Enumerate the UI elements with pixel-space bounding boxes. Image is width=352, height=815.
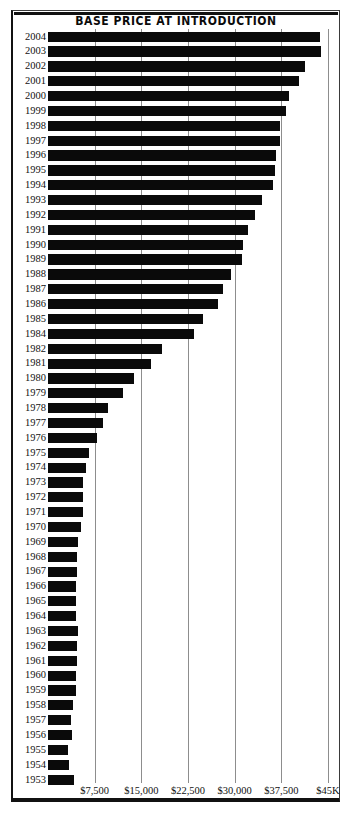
bar-row: 1968	[0, 550, 352, 565]
year-label: 1971	[14, 505, 46, 519]
bar	[48, 715, 71, 725]
year-label: 2000	[14, 89, 46, 103]
x-tick-label: $37,500	[264, 785, 298, 797]
bar	[48, 492, 83, 502]
year-label: 1954	[14, 758, 46, 772]
bar-row: 1959	[0, 683, 352, 698]
bar	[48, 418, 103, 428]
bar	[48, 269, 231, 279]
bar-row: 2002	[0, 59, 352, 74]
year-label: 1993	[14, 193, 46, 207]
year-label: 1969	[14, 535, 46, 549]
x-tick-label: $30,000	[218, 785, 252, 797]
year-label: 1985	[14, 312, 46, 326]
bar	[48, 344, 162, 354]
bar-row: 1962	[0, 639, 352, 654]
year-label: 1996	[14, 148, 46, 162]
bar-row: 1994	[0, 178, 352, 193]
bar-row: 1969	[0, 535, 352, 550]
bar-row: 1992	[0, 208, 352, 223]
bar-row: 1999	[0, 104, 352, 119]
year-label: 1967	[14, 564, 46, 578]
bar-row: 1958	[0, 698, 352, 713]
bar	[48, 210, 255, 220]
bar	[48, 596, 76, 606]
bar	[48, 136, 280, 146]
bar-row: 1984	[0, 327, 352, 342]
bar-row: 1995	[0, 163, 352, 178]
year-label: 1981	[14, 356, 46, 370]
year-label: 1960	[14, 668, 46, 682]
bar	[48, 433, 97, 443]
bar	[48, 61, 305, 71]
bar	[48, 106, 286, 116]
bar	[48, 641, 77, 651]
bar-row: 1982	[0, 342, 352, 357]
bar	[48, 165, 275, 175]
bar	[48, 150, 276, 160]
bar-row: 2000	[0, 89, 352, 104]
year-label: 1968	[14, 550, 46, 564]
bar-row: 1965	[0, 594, 352, 609]
year-label: 1958	[14, 698, 46, 712]
year-label: 1980	[14, 371, 46, 385]
bar-row: 1988	[0, 267, 352, 282]
bar	[48, 448, 89, 458]
bar	[48, 685, 76, 695]
year-label: 1986	[14, 297, 46, 311]
bar	[48, 656, 77, 666]
bar	[48, 121, 280, 131]
bar-row: 1990	[0, 238, 352, 253]
bar-row: 1998	[0, 119, 352, 134]
bar	[48, 373, 134, 383]
bar	[48, 180, 273, 190]
bar-row: 1967	[0, 564, 352, 579]
bar-row: 1993	[0, 193, 352, 208]
bar-row: 1989	[0, 252, 352, 267]
bar	[48, 611, 76, 621]
bar-row: 1963	[0, 624, 352, 639]
bar-row: 1957	[0, 713, 352, 728]
x-tick-label: $22,500	[171, 785, 205, 797]
year-label: 1965	[14, 594, 46, 608]
bar-row: 1973	[0, 475, 352, 490]
year-label: 1959	[14, 683, 46, 697]
year-label: 1994	[14, 178, 46, 192]
bar	[48, 314, 203, 324]
year-label: 1953	[14, 773, 46, 787]
bar	[48, 463, 86, 473]
bar-row: 1979	[0, 386, 352, 401]
bar-row: 1972	[0, 490, 352, 505]
year-label: 1977	[14, 416, 46, 430]
year-label: 1989	[14, 252, 46, 266]
year-label: 1956	[14, 728, 46, 742]
bar-row: 1975	[0, 446, 352, 461]
year-label: 1972	[14, 490, 46, 504]
year-label: 1979	[14, 386, 46, 400]
bar-row: 1970	[0, 520, 352, 535]
bar-row: 1997	[0, 134, 352, 149]
bar	[48, 403, 108, 413]
bar-row: 1991	[0, 223, 352, 238]
year-label: 1991	[14, 223, 46, 237]
year-label: 1978	[14, 401, 46, 415]
bar	[48, 671, 76, 681]
plot-area: 2004200320022001200019991998199719961995…	[0, 0, 352, 815]
year-label: 1982	[14, 342, 46, 356]
year-label: 1961	[14, 654, 46, 668]
bar	[48, 299, 218, 309]
year-label: 1995	[14, 163, 46, 177]
bar-row: 1954	[0, 758, 352, 773]
bar-row: 1977	[0, 416, 352, 431]
year-label: 1975	[14, 446, 46, 460]
year-label: 2003	[14, 44, 46, 58]
bar	[48, 775, 74, 785]
bar-row: 1976	[0, 431, 352, 446]
bar	[48, 254, 242, 264]
year-label: 1984	[14, 327, 46, 341]
bar	[48, 730, 72, 740]
year-label: 2001	[14, 74, 46, 88]
year-label: 1999	[14, 104, 46, 118]
year-label: 1963	[14, 624, 46, 638]
bar	[48, 477, 83, 487]
